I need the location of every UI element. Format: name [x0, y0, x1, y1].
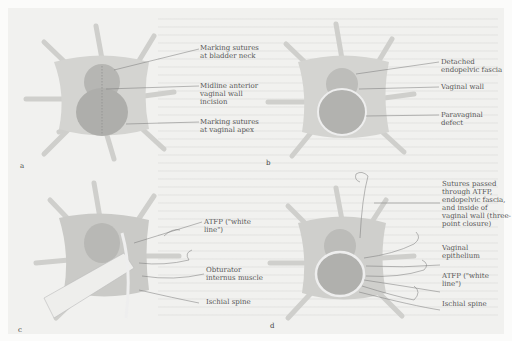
- panel-letter-d: d: [270, 322, 274, 330]
- label-vaginal-wall: Vaginal wall: [441, 83, 507, 91]
- label-marking-sutures-vaginal-apex: Marking sutures at vaginal apex: [200, 118, 260, 134]
- figure-page: Marking sutures at bladder neck Midline …: [8, 8, 504, 334]
- label-atfp-white-line-c: ATFP ("white line"): [204, 218, 264, 234]
- label-paravaginal-defect: Paravaginal defect: [441, 111, 507, 127]
- panel-c: ATFP ("white line") Obturator internus m…: [14, 178, 258, 336]
- label-midline-incision: Midline anterior vaginal wall incision: [200, 82, 262, 106]
- label-detached-endopelvic-fascia: Detached endopelvic fascia: [441, 58, 507, 74]
- panel-letter-b: b: [266, 159, 270, 167]
- label-sutures-passed-three-point-closure: Sutures passed through ATFP, endopelvic …: [442, 180, 512, 228]
- label-ischial-spine-d: Ischial spine: [442, 300, 508, 308]
- label-vaginal-epithelium: Vaginal epithelium: [442, 244, 508, 260]
- label-marking-sutures-bladder-neck: Marking sutures at bladder neck: [200, 44, 260, 60]
- label-atfp-white-line-d: ATFP ("white line"): [442, 272, 508, 288]
- label-obturator-internus: Obturator internus muscle: [206, 266, 264, 282]
- panel-letter-c: c: [18, 326, 22, 334]
- panel-letter-a: a: [20, 162, 24, 170]
- panel-a: Marking sutures at bladder neck Midline …: [14, 14, 258, 172]
- anatomy-illustration-b: [264, 14, 508, 172]
- label-ischial-spine-c: Ischial spine: [206, 298, 264, 306]
- panel-d: Sutures passed through ATFP, endopelvic …: [264, 168, 508, 326]
- anatomy-illustration-c: [14, 178, 258, 336]
- panel-b: Detached endopelvic fascia Vaginal wall …: [264, 14, 508, 172]
